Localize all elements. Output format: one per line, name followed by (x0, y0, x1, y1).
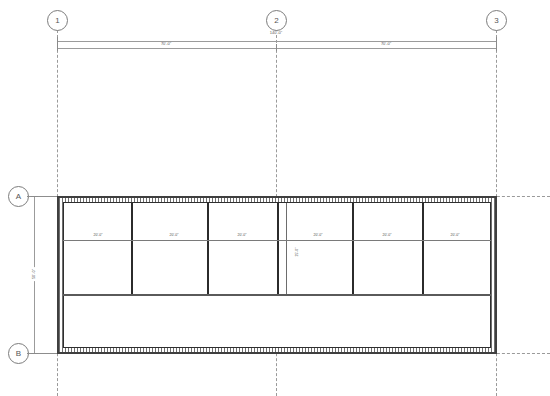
bay-divider-1 (131, 203, 133, 295)
overall-dimension-text: 140'-0" (268, 31, 284, 35)
grid-bubble-b[interactable]: B (8, 343, 29, 364)
vertical-dim-tick-top (31, 196, 38, 197)
grid-bubble-1[interactable]: 1 (47, 10, 68, 31)
bay-divider-6 (422, 203, 424, 295)
segment-dim-tick-2 (276, 44, 277, 51)
bay-label-2: 20'-0" (170, 234, 179, 238)
overall-dim-tick-right (496, 37, 497, 44)
drawing-sheet: 1 2 3 A B 140'-0" 70'-0" 70'-0" 50'-0" (0, 0, 550, 396)
bay-label-1: 20'-0" (94, 234, 103, 238)
bay-label-6: 20'-0" (451, 234, 460, 238)
segment-dimension-text-1: 70'-0" (159, 42, 173, 46)
bay-divider-5 (352, 203, 354, 295)
interior-vertical-dimension-text: 25'-0" (296, 248, 300, 257)
overall-dimension-line (57, 41, 496, 42)
grid-bubble-1-label: 1 (55, 17, 59, 25)
grid-bubble-a[interactable]: A (8, 186, 29, 207)
bay-divider-3 (277, 203, 279, 295)
bay-label-3: 20'-0" (238, 234, 247, 238)
bay-label-4: 20'-0" (314, 234, 323, 238)
segment-dim-tick-1 (57, 44, 58, 51)
grid-bubble-2[interactable]: 2 (266, 10, 287, 31)
segment-dim-tick-3 (496, 44, 497, 51)
grid-bubble-2-label: 2 (274, 17, 278, 25)
bay-divider-4 (286, 203, 287, 295)
grid-bubble-b-label: B (16, 350, 21, 358)
bay-divider-2 (207, 203, 209, 295)
bay-midline (63, 240, 491, 241)
vertical-dimension-text: 50'-0" (32, 267, 36, 281)
grid-bubble-3[interactable]: 3 (486, 10, 507, 31)
grid-bubble-a-label: A (16, 193, 21, 201)
vertical-dim-tick-bottom (31, 353, 38, 354)
overall-dim-tick-left (57, 37, 58, 44)
grid-bubble-3-label: 3 (494, 17, 498, 25)
bay-label-5: 20'-0" (383, 234, 392, 238)
segment-dimension-text-2: 70'-0" (379, 42, 393, 46)
corridor-top-wall (63, 294, 491, 296)
